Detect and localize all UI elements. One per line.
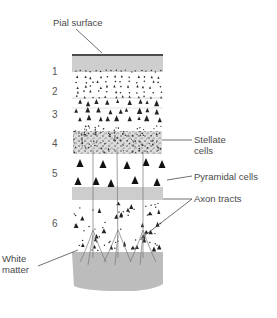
axon-tracts-label: Axon tracts <box>194 193 242 204</box>
layer-number-6: 6 <box>52 218 58 229</box>
cortex-column-diagram <box>0 0 277 318</box>
layer-3-cells <box>74 99 162 122</box>
layer-number-5: 5 <box>52 168 58 179</box>
stellate-label-line1: Stellate <box>194 134 226 145</box>
layer-number-2: 2 <box>52 86 58 97</box>
white-matter-line2: matter <box>2 264 29 275</box>
layer-2-cells <box>75 69 162 98</box>
stellate-cells-label: Stellate cells <box>194 134 226 156</box>
layer-number-1: 1 <box>52 66 58 77</box>
white-matter-band <box>72 252 163 291</box>
pyramidal-cells-label: Pyramidal cells <box>194 171 258 182</box>
layer-5-cells <box>75 158 166 187</box>
axon-tracts <box>80 150 156 265</box>
layer-1-band <box>72 56 163 72</box>
white-matter-line1: White <box>2 253 29 264</box>
pial-surface-label: Pial surface <box>53 17 103 28</box>
layer-number-3: 3 <box>52 109 58 120</box>
white-matter-label: White matter <box>2 253 29 275</box>
stellate-label-line2: cells <box>194 145 226 156</box>
layer-number-4: 4 <box>52 138 58 149</box>
